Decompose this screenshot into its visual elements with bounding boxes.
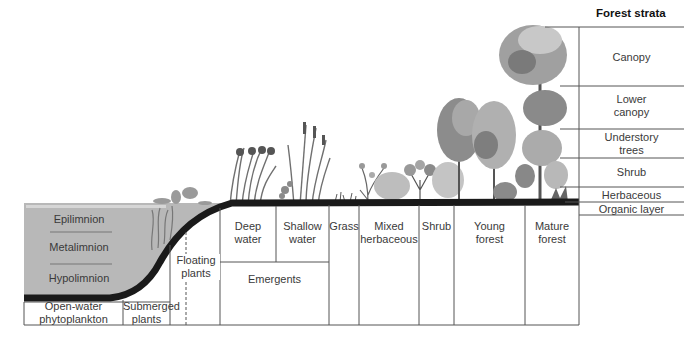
- zone-grass: Grass: [329, 220, 359, 233]
- zone-emergents: Emergents: [220, 273, 329, 286]
- shrub-icon: [374, 160, 464, 202]
- forest-strata-title: Forest strata: [596, 7, 666, 19]
- zone-young-forest: Young forest: [454, 220, 525, 246]
- small-flowers-icon: [279, 181, 293, 199]
- water-surface-speckle: [26, 205, 166, 208]
- zone-mature-forest: Mature forest: [525, 220, 579, 246]
- lake-epilimnion: Epilimnion: [24, 213, 134, 226]
- zone-shrub: Shrub: [419, 220, 454, 233]
- zone-shallow-water: Shallow water: [276, 220, 329, 246]
- strata-lower-canopy: Lower canopy: [579, 93, 684, 119]
- strata-canopy: Canopy: [579, 51, 684, 64]
- zone-open-water-phytoplankton: Open-water phytoplankton: [24, 300, 123, 326]
- zone-mixed-herbaceous: Mixed herbaceous: [359, 220, 419, 246]
- strata-herbaceous: Herbaceous: [579, 189, 684, 202]
- strata-shrub: Shrub: [579, 166, 684, 179]
- strata-understory-trees: Understory trees: [579, 131, 684, 157]
- floating-plants-icon: [153, 187, 212, 205]
- strata-organic-layer: Organic layer: [579, 203, 684, 216]
- lake-metalimnion: Metalimnion: [24, 241, 134, 254]
- zone-submerged-plants: Submerged plants: [123, 300, 170, 326]
- zone-deep-water: Deep water: [220, 220, 276, 246]
- zone-floating-plants: Floating plants: [172, 254, 220, 280]
- lake-hypolimnion: Hypolimnion: [24, 272, 134, 285]
